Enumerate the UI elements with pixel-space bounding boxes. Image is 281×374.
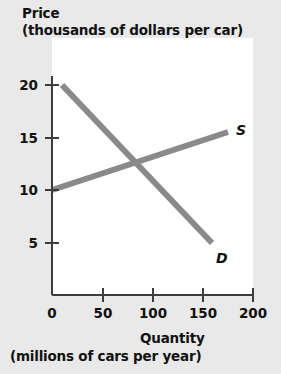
supply-curve-label: S <box>236 122 246 138</box>
supply-demand-chart-figure: Price (thousands of dollars per car) <box>0 0 281 374</box>
y-tick-label-5: 5 <box>8 235 38 251</box>
x-tick-label-200: 200 <box>238 305 268 321</box>
y-tick-label-20: 20 <box>8 77 38 93</box>
y-tick-label-10: 10 <box>8 182 38 198</box>
origin-tick-label: 0 <box>37 305 67 321</box>
demand-curve-label: D <box>216 250 228 266</box>
x-tick-label-50: 50 <box>88 305 118 321</box>
plot-area: 20 15 10 5 0 50 100 150 200 S D <box>0 38 281 323</box>
y-axis-title: Price <box>22 5 59 21</box>
y-tick-label-15: 15 <box>8 130 38 146</box>
x-tick-label-100: 100 <box>138 305 168 321</box>
y-axis-units: (thousands of dollars per car) <box>22 22 243 38</box>
x-axis-units: (millions of cars per year) <box>10 348 201 364</box>
x-axis-title: Quantity <box>140 330 205 346</box>
chart-canvas <box>0 38 281 323</box>
x-tick-label-150: 150 <box>188 305 218 321</box>
